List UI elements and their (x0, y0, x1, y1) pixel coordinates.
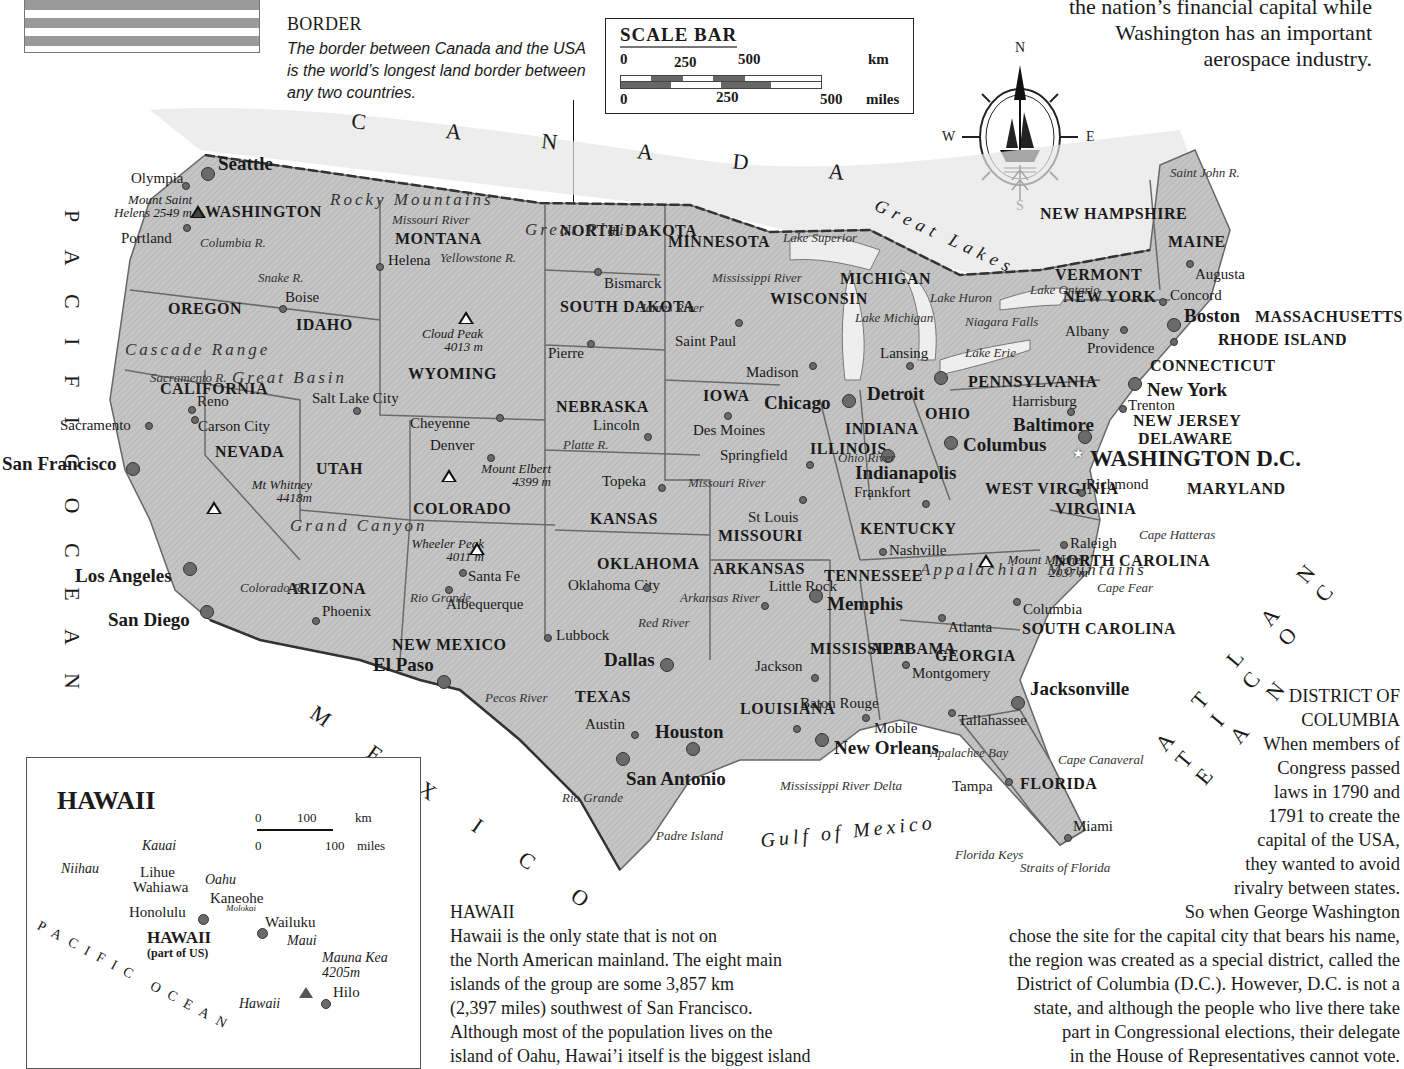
water-label-arkansas-river: Arkansas River (680, 590, 760, 606)
city-dot (793, 725, 801, 733)
city-label-boston: Boston (1184, 305, 1240, 327)
state-label-nevada: NEVADA (215, 443, 284, 461)
text-line: the region was created as a special dist… (916, 948, 1400, 972)
state-label-michigan: MICHIGAN (840, 270, 931, 288)
city-dot (544, 634, 552, 642)
water-label-lake-huron: Lake Huron (930, 290, 992, 306)
city-dot (182, 182, 190, 190)
state-label-virginia: VIRGINIA (1055, 500, 1136, 518)
island-kauai: Kauai (142, 838, 176, 854)
capital-label: WASHINGTON D.C. (1090, 446, 1301, 472)
peak-triangle-fill (472, 546, 482, 554)
text-line: state, and although the people who live … (916, 996, 1400, 1020)
city-label-lubbock: Lubbock (556, 627, 609, 644)
city-hilo: Hilo (333, 984, 360, 1001)
city-wahiawa: Wahiawa (133, 879, 188, 896)
city-label-detroit: Detroit (867, 383, 925, 405)
city-dot (279, 305, 287, 313)
water-label-lake-erie: Lake Erie (965, 345, 1016, 361)
city-dot (459, 569, 467, 577)
water-label-rio-grande: Rio Grande (410, 590, 471, 606)
city-dot (1170, 338, 1178, 346)
hawaii-scale-km-0: 0 (255, 810, 262, 826)
city-dot (1159, 298, 1167, 306)
water-label-missouri-river: Missouri River (392, 212, 470, 228)
city-label-little-rock: Little Rock (769, 578, 837, 595)
city-label-montgomery: Montgomery (912, 665, 990, 682)
city-dot (201, 167, 215, 181)
island-hawaii: Hawaii (239, 996, 280, 1012)
peak-label-mt-whitney-4418m: Mt Whitney 4418m (222, 478, 312, 504)
state-label-ohio: OHIO (925, 405, 971, 423)
state-label-missouri: MISSOURI (718, 527, 803, 545)
city-label-springfield: Springfield (720, 447, 788, 464)
hawaii-scale-km-unit: km (355, 810, 372, 826)
city-dot (938, 614, 946, 622)
city-dot (437, 675, 451, 689)
city-label-columbus: Columbus (963, 434, 1046, 456)
city-dot (198, 914, 209, 925)
peak-label-mount-saint-helens-2549-m: Mount Saint Helens 2549 m (102, 193, 192, 219)
water-label-niagara-falls: Niagara Falls (965, 314, 1038, 330)
city-label-houston: Houston (655, 721, 724, 743)
city-dot (1186, 260, 1194, 268)
hawaii-state-sub: (part of US) (147, 946, 208, 961)
island-maui: Maui (287, 933, 317, 949)
hawaii-state-label: HAWAII (147, 928, 211, 948)
state-label-nebraska: NEBRASKA (556, 398, 649, 416)
city-dot (376, 263, 384, 271)
city-label-baton-rouge: Baton Rouge (800, 695, 879, 712)
state-label-minnesota: MINNESOTA (668, 233, 770, 251)
state-label-maryland: MARYLAND (1187, 480, 1286, 498)
terrain-label-appalachian-mountains: Appalachian Mountains (920, 560, 1147, 580)
water-label-ohio-river: Ohio River (838, 450, 895, 466)
city-dot (906, 362, 914, 370)
state-label-texas: TEXAS (575, 688, 631, 706)
state-label-new-mexico: NEW MEXICO (392, 636, 507, 654)
water-label-lake-superior: Lake Superior (783, 230, 857, 246)
peak-mauna-kea: Mauna Kea 4205m (322, 950, 412, 980)
city-label-el-paso: El Paso (373, 654, 434, 676)
state-label-connecticut: CONNECTICUT (1150, 357, 1276, 375)
city-label-los-angeles: Los Angeles (75, 565, 172, 587)
city-dot (183, 224, 191, 232)
hawaii-scale-mile-unit: miles (357, 838, 385, 854)
city-dot (191, 416, 199, 424)
city-dot (1078, 489, 1086, 497)
state-label-utah: UTAH (316, 460, 363, 478)
peak-triangle-fill (209, 505, 219, 513)
capital-star-icon: ★ (1072, 445, 1085, 462)
city-dot (200, 605, 214, 619)
city-label-topeka: Topeka (602, 473, 646, 490)
water-label-yellowstone-r: Yellowstone R. (440, 250, 516, 266)
water-label-mississippi-river: Mississippi River (712, 270, 802, 286)
terrain-label-rocky-mountains: Rocky Mountains (330, 190, 494, 210)
state-label-kentucky: KENTUCKY (860, 520, 956, 538)
water-label-cape-fear: Cape Fear (1097, 580, 1153, 596)
state-label-maine: MAINE (1168, 233, 1226, 251)
city-label-san-francisco: San Francisco (2, 453, 117, 475)
city-label-sacramento: Sacramento (60, 417, 131, 434)
city-label-nashville: Nashville (889, 542, 947, 559)
city-dot (799, 496, 807, 504)
city-label-madison: Madison (746, 364, 799, 381)
text-line: Hawaii is the only state that is not on (450, 924, 920, 948)
city-dot (934, 371, 948, 385)
city-label-san-antonio: San Antonio (626, 768, 726, 790)
state-label-georgia: GEORGIA (935, 647, 1016, 665)
city-label-atlanta: Atlanta (948, 619, 992, 636)
text-line: island of Oahu, Hawai’i itself is the bi… (450, 1044, 920, 1068)
city-label-boise: Boise (285, 289, 319, 306)
city-dot (587, 340, 595, 348)
city-dot (312, 617, 320, 625)
city-label-albany: Albany (1065, 323, 1109, 340)
city-dot (761, 602, 769, 610)
city-label-trenton: Trenton (1128, 397, 1175, 414)
water-label-lake-michigan: Lake Michigan (855, 310, 933, 326)
city-dot (735, 319, 743, 327)
city-label-frankfort: Frankfort (854, 484, 911, 501)
city-label-providence: Providence (1087, 340, 1154, 357)
peak-label-mount-elbert-4399-m: Mount Elbert 4399 m (461, 462, 551, 488)
city-label-harrisburg: Harrisburg (1012, 393, 1077, 410)
state-label-new-hampshire: NEW HAMPSHIRE (1040, 205, 1187, 223)
